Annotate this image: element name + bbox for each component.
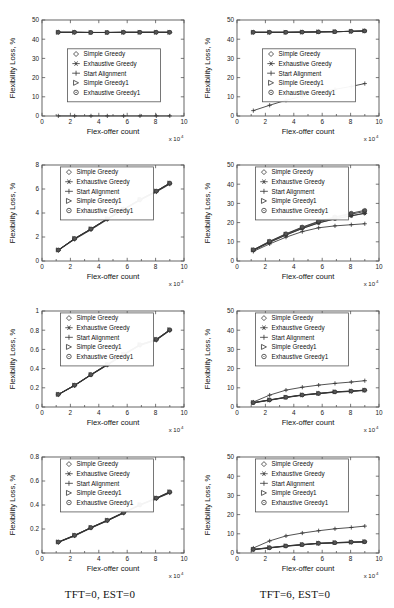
circle-marker [56, 248, 60, 252]
chart-panel-r3c1: 024681000.20.40.60.81Flex-offer countFle… [4, 297, 196, 443]
circle-marker-dot [76, 92, 77, 93]
circle-marker [168, 30, 172, 34]
x-tick-label: 4 [292, 263, 296, 270]
legend: Simple GreedyExhaustive GreedyStart Alig… [60, 167, 153, 220]
x-axis-exponent: x 10 [364, 427, 376, 433]
x-tick-label: 10 [375, 555, 383, 562]
y-tick-label: 50 [227, 307, 235, 314]
circle-marker [349, 540, 353, 544]
circle-marker [251, 547, 255, 551]
circle-marker [56, 540, 60, 544]
legend-label: Start Alignment [271, 188, 314, 196]
circle-marker [122, 30, 126, 34]
y-tick-label: 0 [230, 112, 234, 119]
x-tick-label: 4 [292, 409, 296, 416]
circle-marker [300, 225, 304, 229]
legend-label: Exhaustive Greedy [271, 470, 325, 478]
legend-label: Simple Greedy [271, 168, 313, 176]
circle-marker [154, 337, 158, 341]
circle-marker [251, 401, 255, 405]
y-tick-label: 0.6 [30, 346, 39, 353]
legend-label: Exhaustive Greedy1 [84, 89, 141, 97]
x-axis-exponent-power: 4 [376, 571, 379, 576]
y-tick-label: 10 [227, 238, 235, 245]
legend-label: Exhaustive Greedy [271, 178, 325, 186]
legend-label: Exhaustive Greedy [76, 470, 130, 478]
circle-marker [89, 227, 93, 231]
chart-panel-r1c1: 024681001020304050Flex-offer countFlexib… [4, 6, 196, 152]
x-tick-label: 4 [292, 555, 296, 562]
caption-column-2: TFT=6, EST=0 [215, 588, 375, 600]
x-tick-label: 6 [320, 118, 324, 125]
x-tick-label: 8 [154, 409, 158, 416]
circle-marker [363, 540, 367, 544]
circle-marker [89, 373, 93, 377]
legend-item: Exhaustive Greedy1 [67, 207, 134, 215]
legend-label: Exhaustive Greedy [271, 324, 325, 332]
legend-label: Simple Greedy1 [271, 489, 317, 497]
circle-marker-dot [263, 356, 264, 357]
circle-marker [138, 30, 142, 34]
y-tick-label: 30 [227, 55, 235, 62]
x-tick-label: 8 [154, 263, 158, 270]
x-axis-label: Flex-offer count [282, 127, 336, 136]
x-tick-label: 0 [235, 118, 239, 125]
y-tick-label: 0 [230, 549, 234, 556]
y-tick-label: 0.4 [30, 501, 39, 508]
legend: Simple GreedyExhaustive GreedyStart Alig… [263, 49, 356, 102]
y-tick-label: 50 [227, 161, 235, 168]
circle-marker [56, 392, 60, 396]
y-tick-label: 40 [227, 36, 235, 43]
y-tick-label: 4 [35, 209, 39, 216]
circle-marker [56, 30, 60, 34]
legend-item: Exhaustive Greedy1 [262, 353, 329, 361]
legend-label: Exhaustive Greedy1 [271, 207, 328, 215]
y-tick-label: 6 [35, 185, 39, 192]
circle-marker [168, 181, 172, 185]
circle-marker [168, 490, 172, 494]
x-axis-exponent-power: 4 [181, 279, 184, 284]
y-tick-label: 40 [227, 327, 235, 334]
x-axis-exponent: x 10 [169, 427, 181, 433]
circle-marker-dot [68, 210, 69, 211]
y-tick-label: 0.2 [30, 384, 39, 391]
x-tick-label: 0 [235, 555, 239, 562]
x-tick-label: 0 [40, 118, 44, 125]
y-tick-label: 10 [32, 93, 40, 100]
y-tick-label: 50 [32, 16, 40, 23]
circle-marker [268, 30, 272, 34]
y-axis-label: Flexibility Loss, % [8, 475, 17, 536]
circle-marker [317, 30, 321, 34]
y-tick-label: 0 [230, 257, 234, 264]
x-axis-exponent: x 10 [364, 281, 376, 287]
circle-marker [105, 31, 109, 35]
circle-marker [349, 211, 353, 215]
circle-marker [251, 30, 255, 34]
y-tick-label: 40 [227, 473, 235, 480]
x-axis-exponent-power: 4 [181, 571, 184, 576]
plot-svg-panel-r4c2: 024681001020304050Flex-offer countFlexib… [199, 443, 391, 589]
x-tick-label: 6 [125, 555, 129, 562]
chart-panel-r1c2: 024681001020304050Flex-offer countFlexib… [199, 6, 391, 152]
x-axis-exponent: x 10 [169, 136, 181, 142]
chart-panel-r2c1: 024681002468Flex-offer countFlexibility … [4, 151, 196, 297]
y-tick-label: 0 [35, 403, 39, 410]
y-axis-label: Flexibility Loss, % [203, 38, 212, 99]
series-line [253, 224, 364, 252]
legend-label: Start Alignment [84, 70, 127, 78]
legend-label: Simple Greedy [84, 50, 126, 58]
y-tick-label: 10 [227, 93, 235, 100]
circle-marker [284, 30, 288, 34]
x-axis-label: Flex-offer count [87, 127, 141, 136]
x-axis-label: Flex-offer count [87, 272, 141, 281]
y-tick-label: 0 [35, 549, 39, 556]
x-tick-label: 6 [125, 409, 129, 416]
legend-label: Start Alignment [271, 480, 314, 488]
y-tick-label: 0.8 [30, 453, 39, 460]
legend: Simple GreedyExhaustive GreedyStart Alig… [255, 167, 348, 220]
circle-marker [363, 29, 367, 33]
legend-label: Simple Greedy1 [271, 343, 317, 351]
y-axis-label: Flexibility Loss, % [8, 38, 17, 99]
legend: Simple GreedyExhaustive GreedyStart Alig… [60, 459, 153, 512]
plot-svg-panel-r4c1: 024681000.20.40.60.8Flex-offer countFlex… [4, 443, 196, 589]
